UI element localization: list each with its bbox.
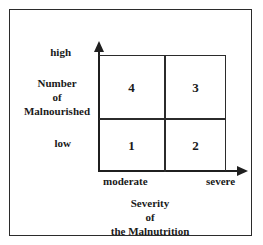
quadrant-grid: 4 3 1 2 — [99, 55, 226, 171]
y-axis-title-line-2: of — [18, 90, 96, 104]
x-axis-tick-moderate: moderate — [103, 176, 148, 187]
x-axis-title-line-3: the Malnutrition — [70, 224, 230, 238]
quadrant-cell-bottom-left: 1 — [99, 119, 164, 172]
y-axis-title: Number of Malnourished — [18, 76, 96, 118]
x-axis-title: Severity of the Malnutrition — [70, 196, 230, 238]
x-axis-title-line-2: of — [70, 210, 230, 224]
y-axis-tick-high: high — [50, 47, 71, 58]
y-axis-tick-low: low — [55, 138, 72, 149]
quadrant-cell-top-left: 4 — [99, 56, 164, 118]
quadrant-cell-bottom-right: 2 — [165, 119, 226, 172]
up-arrow-icon — [94, 41, 104, 52]
y-axis-title-line-3: Malnourished — [18, 104, 96, 118]
quadrant-diagram: 4 3 1 2 high low moderate severe Number … — [0, 0, 263, 245]
y-axis-title-line-1: Number — [18, 76, 96, 90]
x-axis-title-line-1: Severity — [70, 196, 230, 210]
quadrant-cell-top-right: 3 — [165, 56, 226, 118]
x-axis-tick-severe: severe — [206, 176, 235, 187]
right-arrow-icon — [237, 166, 248, 176]
figure-border: 4 3 1 2 high low moderate severe Number … — [9, 9, 252, 236]
